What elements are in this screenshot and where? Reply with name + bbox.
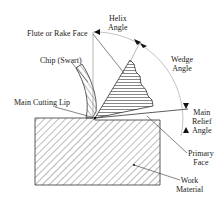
label-line: Main <box>192 108 212 117</box>
label-work-material: Work Material <box>176 176 203 194</box>
label-main-relief-angle: Main Relief Angle <box>192 108 212 135</box>
label-line: Material <box>176 185 203 194</box>
label-line: Angle <box>171 64 193 73</box>
label-chip: Chip (Swart) <box>40 56 82 65</box>
label-line: Relief <box>192 117 212 126</box>
cutting-geometry-diagram: Helix Angle Flute or Rake Face Wedge Ang… <box>0 0 223 203</box>
label-flute-rake-face: Flute or Rake Face <box>27 29 88 38</box>
tool-wedge <box>95 60 153 118</box>
arrowhead-icon <box>140 43 147 48</box>
label-line: Angle <box>192 126 212 135</box>
arrowhead-icon <box>94 29 100 35</box>
label-line: Helix <box>108 14 128 23</box>
work-material-block <box>35 118 160 185</box>
label-line: Wedge <box>171 55 193 64</box>
label-line: Primary <box>188 149 214 158</box>
angle-arc-lower <box>181 118 183 136</box>
helix-reference-line <box>130 42 140 62</box>
label-line: Angle <box>108 23 128 32</box>
label-wedge-angle: Wedge Angle <box>171 55 193 73</box>
arrowhead-icon <box>183 127 189 133</box>
work-material-point <box>133 164 135 166</box>
label-main-cutting-lip: Main Cutting Lip <box>14 98 70 107</box>
label-helix-angle: Helix Angle <box>108 14 128 32</box>
cutting-lip-point <box>94 117 96 119</box>
label-line: Face <box>188 158 214 167</box>
arrowhead-icon <box>183 103 189 109</box>
label-primary-face: Primary Face <box>188 149 214 167</box>
label-line: Work <box>176 176 203 185</box>
leader-rake-face <box>93 34 124 73</box>
